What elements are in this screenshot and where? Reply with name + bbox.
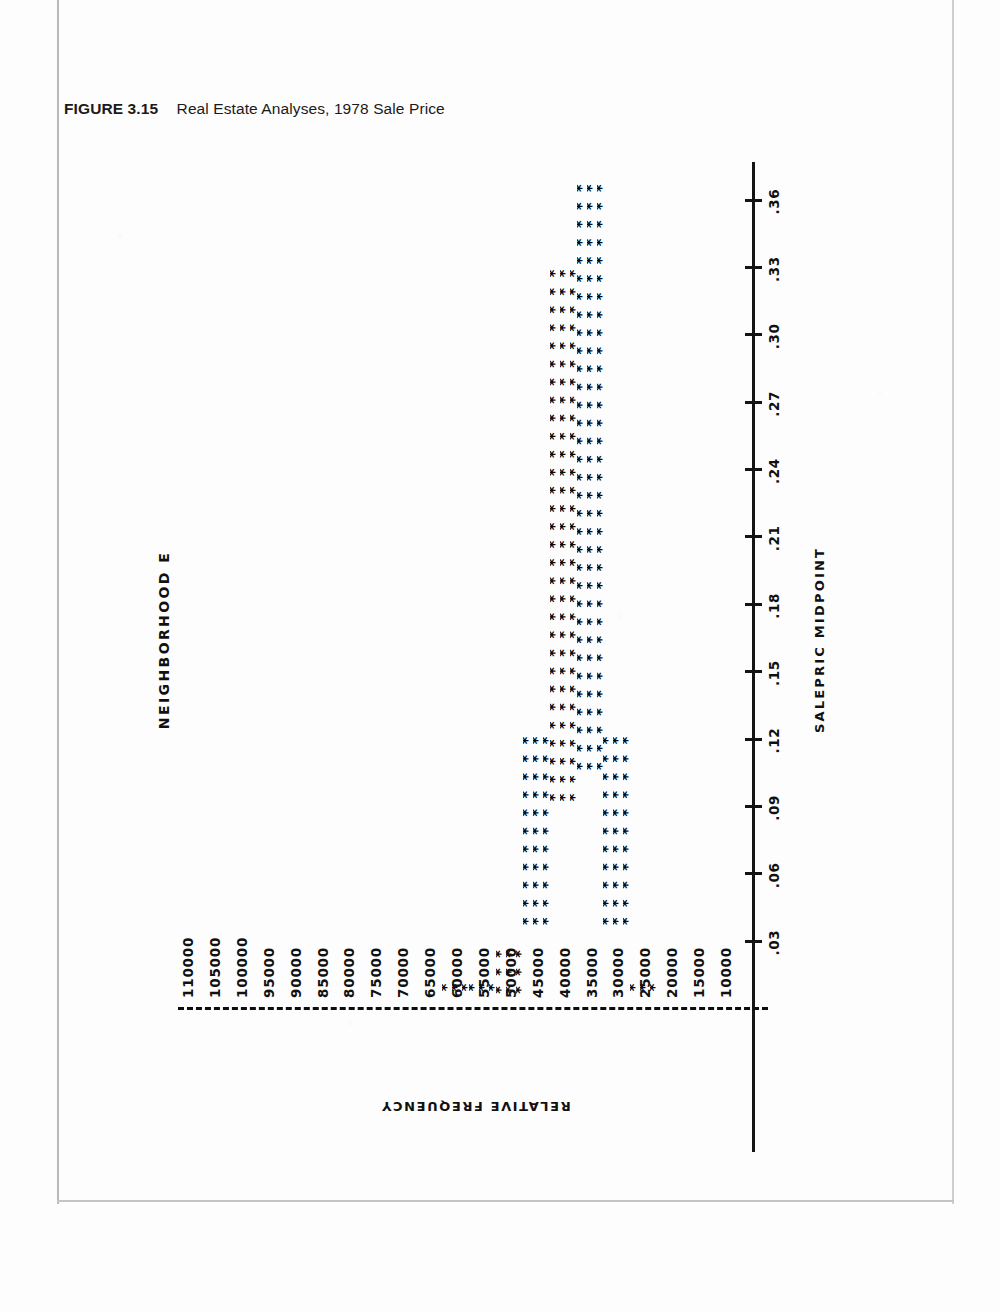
bar-asterisk-row: * * * * * * * * * * * * * * * * * * * * … [560, 269, 570, 1010]
midpoint-tick-label: 65000 [422, 947, 438, 998]
frequency-tick-label: .18 [766, 593, 782, 619]
figure-caption: FIGURE 3.15 Real Estate Analyses, 1978 S… [64, 100, 445, 118]
chart-inner: NEIGHBORHOOD E RELATIVE FREQUENCY SALEPR… [150, 120, 850, 1160]
figure-plate-right-border [952, 0, 954, 1204]
midpoint-tick-label: 20000 [664, 947, 680, 998]
plot-area: **** * * * * * * * * * ** * * * * * * * … [190, 170, 752, 1010]
frequency-tick-label: .12 [766, 728, 782, 754]
midpoint-tick-label: 45000 [530, 947, 546, 998]
midpoint-tick-label: 30000 [610, 947, 626, 998]
frequency-tick [745, 603, 762, 606]
midpoint-tick-label: 95000 [261, 947, 277, 998]
frequency-tick [745, 805, 762, 808]
frequency-tick-label: .27 [766, 391, 782, 417]
figure-plate-bottom-border [57, 1200, 954, 1202]
frequency-tick-label: .03 [766, 930, 782, 956]
frequency-tick [745, 872, 762, 875]
midpoint-tick-label: 110000 [180, 937, 196, 998]
midpoint-tick-label: 40000 [557, 947, 573, 998]
x-axis-title: SALEPRIC MIDPOINT [812, 120, 827, 1160]
bar-asterisk-row: * * * * * * * * * * * * * * * * * * * * … [570, 269, 580, 1010]
frequency-tick [745, 670, 762, 673]
histogram-bar: * * * * * * * * * * * * * * * * * * * * … [577, 184, 607, 1010]
midpoint-tick-label: 55000 [476, 947, 492, 998]
midpoint-tick-label: 15000 [691, 947, 707, 998]
frequency-axis-line [752, 162, 755, 1152]
frequency-tick [745, 266, 762, 269]
midpoint-tick-label: 75000 [368, 947, 384, 998]
frequency-tick [745, 535, 762, 538]
midpoint-tick-label: 80000 [341, 947, 357, 998]
midpoint-tick-label: 60000 [449, 947, 465, 998]
bar-asterisk-row: * * * * * * * * * * * * * * * * * * * * … [587, 184, 597, 1010]
figure-caption-text: Real Estate Analyses, 1978 Sale Price [177, 100, 445, 117]
frequency-tick-label: .30 [766, 324, 782, 350]
frequency-tick-label: .09 [766, 795, 782, 821]
bar-asterisk-row: * * * * * * * * * * * * * * * * * * * * … [597, 184, 607, 1010]
midpoint-tick-label: 25000 [637, 947, 653, 998]
figure-caption-label: FIGURE [64, 100, 123, 117]
frequency-tick-label: .33 [766, 256, 782, 282]
frequency-tick-label: .06 [766, 862, 782, 888]
midpoint-tick-label: 50000 [503, 947, 519, 998]
frequency-tick [745, 940, 762, 943]
midpoint-tick-label: 90000 [288, 947, 304, 998]
frequency-tick [745, 401, 762, 404]
frequency-tick [745, 333, 762, 336]
midpoint-tick-label: 105000 [207, 937, 223, 998]
frequency-tick [745, 468, 762, 471]
figure-plate-left-border [57, 0, 59, 1204]
midpoint-tick-label: 85000 [315, 947, 331, 998]
frequency-tick-label: .15 [766, 660, 782, 686]
frequency-tick-label: .21 [766, 526, 782, 552]
midpoint-tick-label: 10000 [718, 947, 734, 998]
frequency-tick-label: .24 [766, 458, 782, 484]
chart-plate: NEIGHBORHOOD E RELATIVE FREQUENCY SALEPR… [150, 120, 850, 1160]
y-axis-title: RELATIVE FREQUENCY [326, 1099, 626, 1114]
frequency-tick-label: .36 [766, 189, 782, 215]
frequency-tick [745, 199, 762, 202]
chart-title: NEIGHBORHOOD E [156, 120, 172, 1160]
midpoint-tick-label: 35000 [584, 947, 600, 998]
midpoint-tick-label: 70000 [395, 947, 411, 998]
histogram-bar: * * * * * * * * * * * * * * * * * * * * … [550, 269, 580, 1010]
midpoint-tick-label: 100000 [234, 937, 250, 998]
figure-caption-number: 3.15 [128, 100, 159, 117]
frequency-tick [745, 738, 762, 741]
